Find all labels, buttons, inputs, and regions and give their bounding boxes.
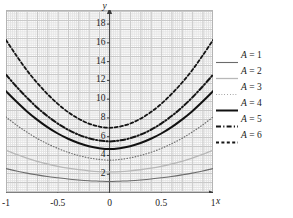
chart-figure: 24681012141618-1-0.500.51 y x A = 1A = 2… (0, 0, 293, 218)
y-tick-label: 10 (84, 94, 106, 104)
x-tick-label: 0.5 (144, 199, 178, 209)
legend-swatch-line (216, 52, 238, 59)
legend-item-label: A = 2 (241, 66, 262, 76)
legend-swatch-line (216, 116, 238, 123)
y-tick-label: 14 (84, 57, 106, 67)
y-tick-label: 2 (84, 169, 106, 179)
legend-item-1[interactable]: A = 1 (216, 47, 293, 63)
curves-layer (6, 10, 213, 193)
legend-item-label: A = 6 (241, 130, 262, 140)
axis-lines (6, 10, 213, 193)
legend-swatch-line (216, 100, 238, 107)
y-tick-label: 8 (84, 113, 106, 123)
x-tick-label: -0.5 (41, 199, 75, 209)
y-tick-label: 12 (84, 75, 106, 85)
chart-legend: A = 1A = 2A = 3A = 4A = 5A = 6 (216, 47, 293, 143)
legend-item-label: A = 5 (241, 114, 262, 124)
y-tick-label: 18 (84, 19, 106, 29)
y-axis-label: y (103, 1, 107, 11)
x-tick-label: -1 (0, 199, 23, 209)
legend-swatch-line (216, 84, 238, 91)
x-axis-label: x (216, 196, 220, 206)
x-tick-label: 1 (196, 199, 230, 209)
y-tick-label: 6 (84, 132, 106, 142)
plot-area (6, 10, 213, 193)
legend-swatch-line (216, 132, 238, 139)
legend-item-label: A = 1 (241, 50, 262, 60)
legend-swatch-line (216, 68, 238, 75)
x-tick-label: 0 (93, 199, 127, 209)
y-tick-label: 4 (84, 150, 106, 160)
y-tick-label: 16 (84, 38, 106, 48)
legend-item-label: A = 4 (241, 98, 262, 108)
legend-item-label: A = 3 (241, 82, 262, 92)
